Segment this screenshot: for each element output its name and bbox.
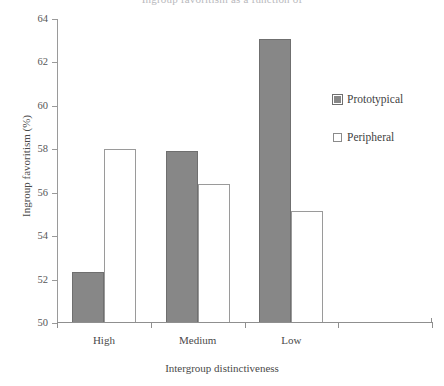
bar-prototypical-low: [259, 39, 291, 323]
bar-peripheral-low: [291, 211, 323, 323]
plot-area: [57, 19, 432, 323]
bar-prototypical-high: [72, 272, 104, 323]
x-axis-label: Intergroup distinctiveness: [57, 362, 387, 374]
legend-item: Prototypical: [333, 88, 443, 110]
legend-item: Peripheral: [333, 126, 443, 148]
open-white-square-icon: [333, 133, 342, 142]
bar-chart: Ingroup favoritism as a function of 5052…: [0, 0, 444, 386]
y-axis-tick-label: 50: [12, 318, 48, 329]
y-axis-tick-label: 64: [12, 14, 48, 25]
chart-legend: PrototypicalPeripheral: [333, 88, 443, 164]
x-axis-category-label: High: [59, 334, 149, 346]
bar-peripheral-medium: [198, 184, 230, 323]
y-axis-label: Ingroup favoritism (%): [20, 66, 32, 266]
x-axis-tick: [57, 322, 58, 328]
x-axis-tick: [151, 322, 152, 328]
chart-title: Ingroup favoritism as a function of: [0, 0, 444, 5]
filled-gray-square-icon: [333, 95, 342, 104]
x-axis-tick: [432, 322, 433, 328]
y-axis-tick-label: 52: [12, 275, 48, 286]
x-axis-tick: [338, 322, 339, 328]
x-axis-category-label: Low: [246, 334, 336, 346]
x-axis-tick: [245, 322, 246, 328]
legend-item-label: Prototypical: [347, 93, 403, 105]
bar-peripheral-high: [104, 149, 136, 323]
bar-prototypical-medium: [166, 151, 198, 323]
legend-item-label: Peripheral: [347, 131, 394, 143]
x-axis-category-label: Medium: [153, 334, 243, 346]
